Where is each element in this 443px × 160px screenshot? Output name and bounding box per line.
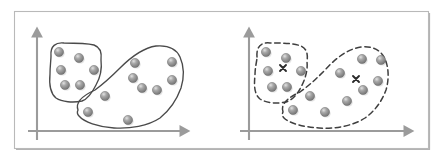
data-point bbox=[320, 107, 329, 116]
data-point bbox=[100, 91, 109, 100]
data-point bbox=[75, 80, 84, 89]
data-point bbox=[123, 115, 132, 124]
data-point bbox=[89, 65, 98, 74]
data-point bbox=[281, 53, 290, 62]
data-point bbox=[288, 105, 297, 114]
data-point bbox=[342, 96, 351, 105]
data-point bbox=[83, 107, 92, 116]
data-point bbox=[263, 66, 272, 75]
data-point bbox=[282, 82, 291, 91]
data-point bbox=[56, 65, 65, 74]
data-point bbox=[54, 47, 63, 56]
data-point bbox=[74, 53, 83, 62]
data-point bbox=[305, 91, 314, 100]
data-point bbox=[167, 75, 176, 84]
data-point bbox=[296, 66, 305, 75]
data-point bbox=[357, 54, 366, 63]
data-point bbox=[152, 85, 161, 94]
data-point bbox=[373, 76, 382, 85]
data-point bbox=[376, 55, 385, 64]
figure-frame bbox=[15, 12, 430, 150]
data-point bbox=[335, 68, 344, 77]
data-point bbox=[130, 58, 139, 67]
data-point bbox=[267, 82, 276, 91]
data-point bbox=[128, 73, 137, 82]
figure-canvas bbox=[0, 0, 443, 160]
data-point bbox=[261, 47, 270, 56]
data-point bbox=[137, 83, 146, 92]
data-point bbox=[60, 80, 69, 89]
data-point bbox=[167, 57, 176, 66]
clustering-figure bbox=[0, 0, 443, 160]
data-point bbox=[358, 85, 367, 94]
